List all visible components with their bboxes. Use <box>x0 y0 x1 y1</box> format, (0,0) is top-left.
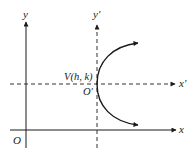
x-prime-axis-label: x′ <box>178 77 187 89</box>
parabola-upper-branch <box>97 43 138 84</box>
origin-label: O <box>13 134 21 146</box>
y-prime-axis-label: y′ <box>92 8 101 20</box>
vertex-label: V(h, k) <box>64 71 93 83</box>
x-axis-label: x <box>178 123 184 135</box>
parabola-lower-branch <box>97 84 138 125</box>
origin-prime-label: O′ <box>83 86 94 97</box>
parabola-translation-diagram: y x O y′ x′ V(h, k) O′ <box>0 0 194 160</box>
y-axis-label: y <box>22 8 28 20</box>
